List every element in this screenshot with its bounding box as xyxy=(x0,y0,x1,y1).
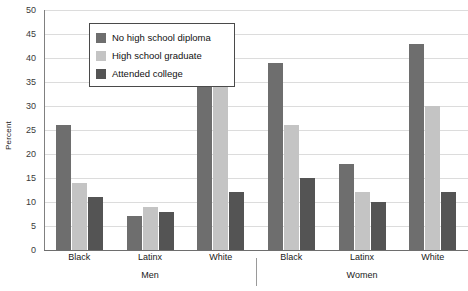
x-axis-supergroup-label: Women xyxy=(347,270,378,280)
x-axis-supergroup-labels: MenWomen xyxy=(44,270,468,286)
bar xyxy=(284,125,299,250)
legend: No high school diploma High school gradu… xyxy=(89,23,235,87)
bar xyxy=(300,178,315,250)
gridline xyxy=(44,226,468,227)
gridline xyxy=(44,154,468,155)
y-axis-title-text: Percent xyxy=(4,121,13,150)
y-axis-tick-label: 40 xyxy=(26,54,36,63)
bar xyxy=(441,192,456,250)
bar xyxy=(143,207,158,250)
y-axis-tick-label: 25 xyxy=(26,126,36,135)
bar xyxy=(213,72,228,250)
gridline xyxy=(44,130,468,131)
x-axis-category-label: Black xyxy=(280,252,302,262)
bar xyxy=(371,202,386,250)
x-axis-category-label: Latinx xyxy=(350,252,374,262)
gridline xyxy=(44,10,468,11)
legend-item-1[interactable]: High school graduate xyxy=(96,47,228,65)
bar xyxy=(229,192,244,250)
legend-swatch-icon-1 xyxy=(96,51,106,61)
bar xyxy=(355,192,370,250)
bar xyxy=(339,164,354,250)
bar xyxy=(88,197,103,250)
y-axis-tick-label: 35 xyxy=(26,78,36,87)
y-axis-title: Percent xyxy=(1,95,15,175)
legend-item-0[interactable]: No high school diploma xyxy=(96,29,228,47)
y-axis-tick-label: 10 xyxy=(26,198,36,207)
bar-chart: Percent 05101520253035404550 No high sch… xyxy=(0,0,468,291)
legend-label-2: Attended college xyxy=(112,69,183,79)
x-axis-supergroup-label: Men xyxy=(141,270,159,280)
y-axis-tick-labels: 05101520253035404550 xyxy=(14,0,40,291)
plot-area: No high school diploma High school gradu… xyxy=(44,10,468,250)
gridline xyxy=(44,202,468,203)
x-axis-category-label: White xyxy=(421,252,444,262)
bar xyxy=(56,125,71,250)
legend-swatch-icon-2 xyxy=(96,69,106,79)
bar xyxy=(268,63,283,250)
y-axis-tick-label: 5 xyxy=(31,222,36,231)
x-axis-category-label: Black xyxy=(68,252,90,262)
y-axis-tick-label: 45 xyxy=(26,30,36,39)
gridline xyxy=(44,178,468,179)
bar xyxy=(425,106,440,250)
y-axis-tick-label: 30 xyxy=(26,102,36,111)
x-axis-line xyxy=(44,250,468,251)
legend-label-1: High school graduate xyxy=(112,51,202,61)
x-axis-category-label: Latinx xyxy=(138,252,162,262)
bar xyxy=(159,212,174,250)
gridline xyxy=(44,106,468,107)
y-axis-line xyxy=(44,10,45,250)
legend-swatch-icon-0 xyxy=(96,33,106,43)
bar xyxy=(127,216,142,250)
supergroup-divider xyxy=(256,258,257,286)
x-axis-category-label: White xyxy=(209,252,232,262)
legend-item-2[interactable]: Attended college xyxy=(96,65,228,83)
y-axis-tick-label: 0 xyxy=(31,246,36,255)
y-axis-tick-label: 50 xyxy=(26,6,36,15)
bar xyxy=(72,183,87,250)
bar xyxy=(409,44,424,250)
legend-label-0: No high school diploma xyxy=(112,33,211,43)
y-axis-tick-label: 20 xyxy=(26,150,36,159)
y-axis-tick-label: 15 xyxy=(26,174,36,183)
